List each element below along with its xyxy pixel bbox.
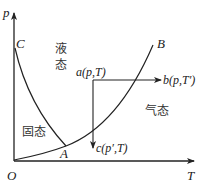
liquid-region-label-2: 态	[55, 58, 67, 72]
state-b-label: b(p,T′)	[163, 73, 195, 87]
phase-diagram: p T O C A B 液 态 固态 气态 a(p,T) b(p,T′) c(p…	[0, 0, 200, 185]
t-axis-label: T	[187, 168, 195, 183]
point-C-label: C	[16, 36, 25, 51]
gas-region-label: 气态	[145, 103, 169, 118]
liquid-region-label-1: 液	[55, 41, 67, 56]
solid-region-label: 固态	[22, 125, 46, 139]
origin-label: O	[7, 168, 17, 183]
state-a-label: a(p,T)	[76, 65, 106, 79]
p-axis-label: p	[2, 5, 10, 20]
point-B-label: B	[157, 36, 165, 51]
state-c-label: c(p′,T)	[96, 141, 128, 155]
point-A-label: A	[59, 146, 68, 161]
